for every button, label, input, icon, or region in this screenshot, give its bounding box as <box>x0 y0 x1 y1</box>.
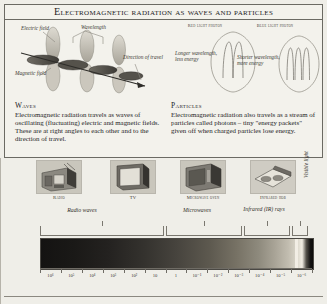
direction-of-travel-label: Direction of travel <box>123 54 163 60</box>
axis-tick <box>103 269 104 273</box>
waves-body: Electromagnetic radiation travels as wav… <box>15 111 161 144</box>
axis-tick-label: 10⁻² <box>213 273 222 278</box>
red-photon-note: Longer wavelength, less energy <box>175 50 219 63</box>
device-infrared-hob: Infrared hob <box>250 160 296 200</box>
axis-tick-label: 10⁵ <box>68 273 74 278</box>
device-radio: Radio <box>36 160 82 200</box>
axis-tick <box>145 269 146 273</box>
band-label-radio-waves: Radio waves <box>44 207 120 214</box>
axis-tick-label: 10⁻⁴ <box>255 273 264 278</box>
spectrum-gradient-bar <box>40 238 314 270</box>
device-strip: Radio TV <box>0 160 327 204</box>
particles-column: Particles Electromagnetic radiation also… <box>171 101 319 135</box>
band-label-visible-light: Visible light <box>303 151 309 178</box>
electric-field-label: Electric field <box>21 25 49 31</box>
em-spectrum-page: Electromagnetic radiation as waves and p… <box>0 0 327 304</box>
spectrum-chart: 10⁶10⁵10⁴10³10²10110⁻¹10⁻²10⁻³10⁻⁴10⁻⁵10… <box>0 238 327 278</box>
axis-tick-label: 10⁻³ <box>234 273 243 278</box>
tv-label: TV <box>110 195 156 200</box>
waves-heading: Waves <box>15 101 161 110</box>
axis-tick <box>124 269 125 273</box>
infrared-hob-image <box>250 160 296 194</box>
axis-tick-label: 10⁻¹ <box>192 273 201 278</box>
bracket-visible-light <box>292 226 308 236</box>
infrared-hob-icon <box>251 161 295 193</box>
axis-tick <box>186 269 187 273</box>
device-microwave-oven: Microwave oven <box>180 160 226 200</box>
bracket-infrared <box>244 226 290 236</box>
magnetic-field-label: Magnetic field <box>15 70 46 76</box>
axis-tick <box>40 269 41 273</box>
radio-label: Radio <box>36 195 82 200</box>
device-tv: TV <box>110 160 156 200</box>
axis-tick <box>207 269 208 273</box>
axis-tick-label: 10⁴ <box>89 273 95 278</box>
axis-tick-label: 10⁻⁶ <box>297 273 306 278</box>
band-label-infrared: Infrared (IR) rays <box>240 206 288 213</box>
axis-tick <box>312 269 313 273</box>
photon-illustration: Red light photon Blue light photon Longe… <box>171 20 321 105</box>
bracket-microwaves <box>166 226 242 236</box>
axis-tick <box>166 269 167 273</box>
tv-icon <box>111 161 155 193</box>
axis-tick-label: 10⁻⁵ <box>276 273 285 278</box>
band-brackets <box>0 226 327 238</box>
axis-tick <box>291 269 292 273</box>
axis-tick <box>270 269 271 273</box>
particles-heading: Particles <box>171 101 319 110</box>
band-label-microwaves: Microwaves <box>166 207 228 214</box>
wave-illustration: Electric field Magnetic field Wavelength… <box>7 20 167 105</box>
radio-image <box>36 160 82 194</box>
wave-illustration-svg <box>7 20 167 105</box>
panel-title: Electromagnetic radiation as waves and p… <box>5 5 322 20</box>
panel-title-text: Electromagnetic radiation as waves and p… <box>54 6 273 17</box>
blue-photon-note: Shorter wavelength, more energy <box>237 54 281 67</box>
wavelength-label: Wavelength <box>81 24 106 30</box>
wavelength-axis: 10⁶10⁵10⁴10³10²10110⁻¹10⁻²10⁻³10⁻⁴10⁻⁵10… <box>40 268 312 283</box>
microwave-oven-image <box>180 160 226 194</box>
axis-tick <box>61 269 62 273</box>
axis-tick-label: 10³ <box>110 273 116 278</box>
infrared-hob-label: Infrared hob <box>250 195 296 200</box>
band-label-strip: Radio waves Microwaves Infrared (IR) ray… <box>0 206 327 228</box>
axis-tick-label: 10 <box>153 273 158 278</box>
axis-tick <box>228 269 229 273</box>
microwave-oven-label: Microwave oven <box>180 195 226 200</box>
microwave-oven-icon <box>181 161 225 193</box>
tv-image <box>110 160 156 194</box>
particles-body: Electromagnetic radiation also travels a… <box>171 111 319 136</box>
radio-icon <box>37 161 81 193</box>
axis-tick <box>82 269 83 273</box>
spectrum-section: Radio TV <box>0 158 327 304</box>
bracket-radio-waves <box>40 226 164 236</box>
axis-tick <box>249 269 250 273</box>
page-baseline-rule <box>4 296 323 297</box>
waves-column: Waves Electromagnetic radiation travels … <box>15 101 161 143</box>
waves-and-particles-panel: Electromagnetic radiation as waves and p… <box>4 4 323 158</box>
visible-light-stripe <box>295 239 298 269</box>
axis-tick-label: 1 <box>175 273 177 278</box>
blue-photon-packet <box>279 36 319 92</box>
axis-tick-label: 10² <box>131 273 137 278</box>
axis-tick-label: 10⁶ <box>47 273 53 278</box>
